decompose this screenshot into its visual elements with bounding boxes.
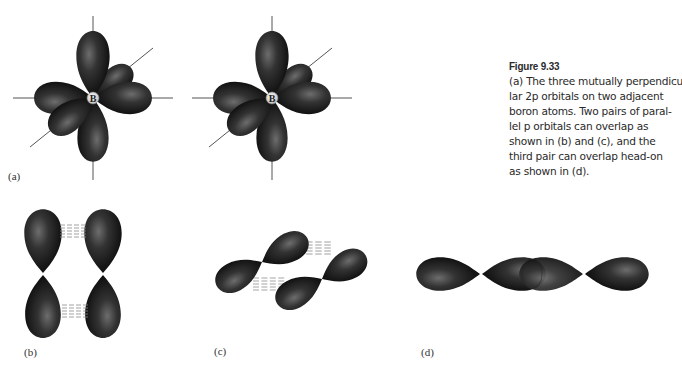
caption-body: (a) The three mutually perpendicu- lar 2… xyxy=(509,74,681,179)
panel-b-pi-overlap xyxy=(24,209,121,338)
caption-line: shown in (b) and (c), and the xyxy=(509,134,681,149)
figure-caption: Figure 9.33 (a) The three mutually perpe… xyxy=(509,60,681,179)
caption-line: third pair can overlap head-on xyxy=(509,149,681,164)
caption-line: (a) The three mutually perpendicu- xyxy=(509,74,681,89)
panel-label-d: (d) xyxy=(421,346,434,358)
boron-atom-label: B xyxy=(269,93,276,104)
boron-atom-label: B xyxy=(90,93,97,104)
figure-title: Figure 9.33 xyxy=(509,60,657,72)
orbital-figure: B B xyxy=(0,0,682,369)
caption-line: lel p orbitals can overlap as xyxy=(509,119,681,134)
panel-label-c: (c) xyxy=(214,345,226,357)
panel-a-orbitals-left: B xyxy=(13,16,173,180)
panel-d-sigma-overlap xyxy=(416,257,648,291)
caption-line: boron atoms. Two pairs of paral- xyxy=(509,104,681,119)
panel-c-pi-overlap xyxy=(210,225,373,316)
caption-line: as shown in (d). xyxy=(509,164,681,179)
panel-label-b: (b) xyxy=(24,346,37,358)
caption-line: lar 2p orbitals on two adjacent xyxy=(509,89,681,104)
panel-a-orbitals-right: B xyxy=(192,16,352,180)
panel-label-a: (a) xyxy=(8,170,20,182)
